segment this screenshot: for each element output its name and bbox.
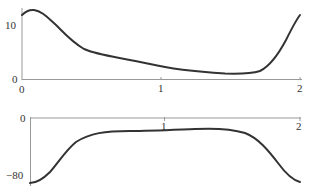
bottom-chart: 0 −80 1 2 xyxy=(6,112,302,186)
top-y-tick-0: 0 xyxy=(12,73,18,85)
top-curve xyxy=(22,10,300,74)
bottom-x-tick-label-2: 2 xyxy=(296,120,302,132)
top-y-tick-10: 10 xyxy=(5,19,17,31)
chart-canvas: 10 0 0 1 2 0 −80 1 2 xyxy=(0,0,315,194)
top-x-tick-label-0: 0 xyxy=(19,83,25,95)
bottom-y-tick-m80: −80 xyxy=(6,169,24,181)
bottom-curve xyxy=(30,129,300,183)
bottom-y-tick-0: 0 xyxy=(20,112,26,124)
top-x-tick-label-1: 1 xyxy=(158,82,164,94)
top-chart: 10 0 0 1 2 xyxy=(5,8,303,95)
top-x-tick-label-2: 2 xyxy=(297,82,303,94)
